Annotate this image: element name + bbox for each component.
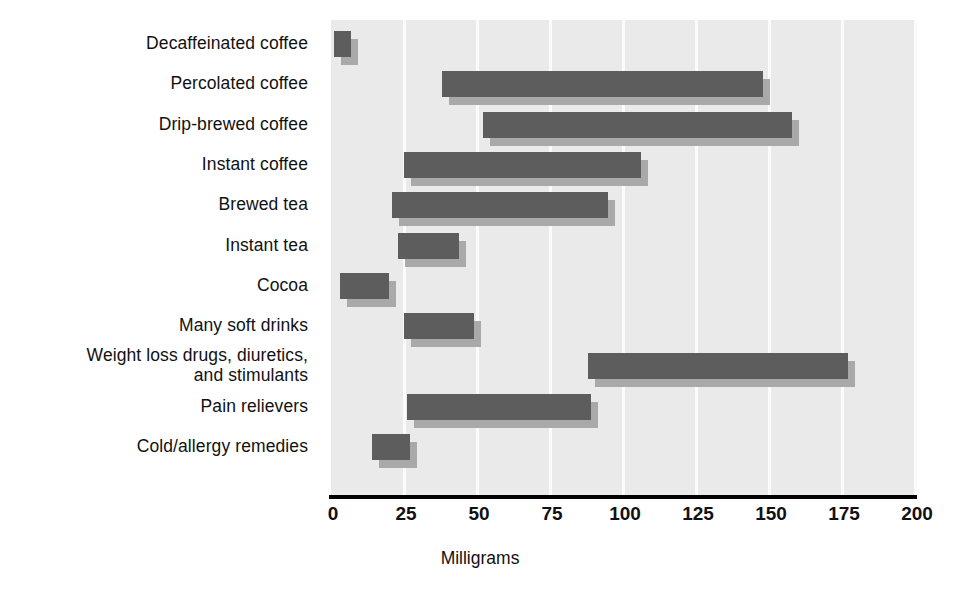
category-label: Many soft drinks [179, 315, 308, 335]
range-bar-fill [404, 313, 474, 339]
x-tick-label: 50 [468, 503, 489, 525]
range-bar-fill [442, 71, 763, 97]
category-label: Drip-brewed coffee [159, 114, 308, 134]
range-bar [404, 313, 474, 339]
range-bar [442, 71, 763, 97]
x-tick-label: 100 [609, 503, 641, 525]
category-label: Instant coffee [202, 154, 308, 174]
plot-area [331, 20, 915, 495]
x-axis-line [329, 495, 917, 499]
range-bar-fill [340, 273, 390, 299]
x-axis-tick-labels: 0255075100125150175200 [0, 503, 960, 531]
caffeine-range-chart: Decaffeinated coffeePercolated coffeeDri… [0, 0, 960, 592]
range-bar-fill [588, 353, 848, 379]
range-bar-fill [404, 152, 641, 178]
category-label: Pain relievers [201, 396, 308, 416]
range-bar-fill [483, 112, 793, 138]
x-axis-title: Milligrams [0, 548, 960, 569]
range-bar [404, 152, 641, 178]
category-label: Weight loss drugs, diuretics, and stimul… [87, 345, 308, 385]
category-label: Cold/allergy remedies [137, 436, 308, 456]
category-label: Cocoa [257, 275, 308, 295]
x-tick-label: 175 [828, 503, 860, 525]
range-bar [407, 394, 591, 420]
range-bar-fill [398, 233, 459, 259]
category-label: Instant tea [225, 235, 308, 255]
category-label: Percolated coffee [170, 73, 308, 93]
range-bar [483, 112, 793, 138]
category-label: Brewed tea [218, 194, 308, 214]
x-tick-label: 200 [901, 503, 933, 525]
range-bar [372, 434, 410, 460]
range-bar-fill [372, 434, 410, 460]
range-bar [588, 353, 848, 379]
range-bar-fill [334, 31, 352, 57]
gridline [841, 20, 844, 495]
x-tick-label: 125 [682, 503, 714, 525]
range-bar [398, 233, 459, 259]
range-bar [334, 31, 352, 57]
range-bar-fill [392, 192, 608, 218]
x-tick-label: 0 [328, 503, 339, 525]
gridline [914, 20, 917, 495]
range-bar-fill [407, 394, 591, 420]
category-label: Decaffeinated coffee [146, 33, 308, 53]
x-tick-label: 150 [755, 503, 787, 525]
x-tick-label: 75 [541, 503, 562, 525]
category-label-column: Decaffeinated coffeePercolated coffeeDri… [0, 20, 322, 495]
range-bar [340, 273, 390, 299]
range-bar [392, 192, 608, 218]
x-tick-label: 25 [395, 503, 416, 525]
